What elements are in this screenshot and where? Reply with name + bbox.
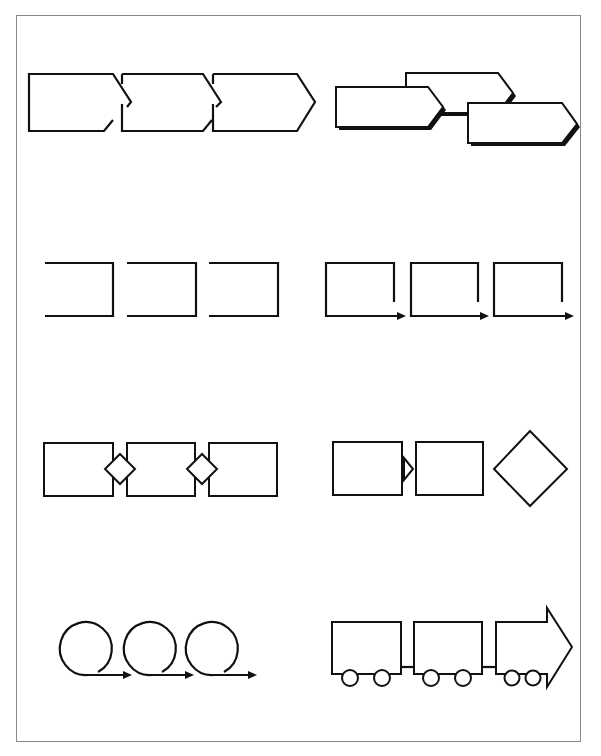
process-box xyxy=(44,443,113,496)
wheel xyxy=(526,671,541,686)
process-box xyxy=(333,442,402,495)
bracket-arrow xyxy=(411,263,489,320)
process-box xyxy=(416,442,483,495)
train-car xyxy=(332,622,401,686)
loop-arrows xyxy=(60,622,257,679)
loop-arrow xyxy=(186,622,257,679)
bracket-arrows xyxy=(326,263,574,320)
wheel xyxy=(342,670,358,686)
open-bracket xyxy=(127,263,196,316)
arrowhead-icon xyxy=(565,312,574,320)
wheel xyxy=(374,670,390,686)
diagram-canvas xyxy=(0,0,601,756)
arrowhead-icon xyxy=(248,671,257,679)
chevron-shape xyxy=(213,74,315,131)
staggered-shadow-chevrons xyxy=(336,73,580,146)
boxes-triangle-diamond xyxy=(333,431,567,506)
arrowhead-icon xyxy=(397,312,406,320)
diagram-page xyxy=(0,0,601,756)
loop-arrow xyxy=(60,622,132,679)
train-car xyxy=(414,622,482,686)
open-brackets xyxy=(45,263,278,316)
wheel xyxy=(505,671,520,686)
loop-arrow xyxy=(124,622,194,679)
chevron-shape xyxy=(29,74,131,131)
process-box xyxy=(127,443,195,496)
train-arrow xyxy=(332,608,572,687)
boxes-with-diamond-connectors xyxy=(44,443,277,496)
process-box xyxy=(209,443,277,496)
train-arrow-car xyxy=(496,608,572,687)
chevron-shadow-shape xyxy=(336,87,446,130)
wheel xyxy=(455,670,471,686)
open-bracket xyxy=(45,263,113,316)
open-bracket xyxy=(209,263,278,316)
arrowhead-icon xyxy=(185,671,194,679)
arrowhead-icon xyxy=(123,671,132,679)
wheel xyxy=(423,670,439,686)
interlocking-chevrons xyxy=(29,74,315,131)
chevron-shadow-shape xyxy=(468,103,580,146)
triangle-connector xyxy=(404,458,413,480)
decision-diamond xyxy=(494,431,567,506)
bracket-arrow xyxy=(494,263,574,320)
chevron-shape xyxy=(122,74,221,131)
bracket-arrow xyxy=(326,263,406,320)
arrowhead-icon xyxy=(480,312,489,320)
